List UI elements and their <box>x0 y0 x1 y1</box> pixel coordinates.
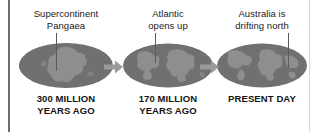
stage-present-day: Australia is drifting north PRESENT DAY <box>214 0 310 132</box>
callout-line: Atlantic <box>120 8 216 20</box>
callout-australia-drifting-north: Australia is drifting north <box>214 8 310 31</box>
caption-line: YEARS AGO <box>14 105 118 117</box>
leader-line-australia <box>288 33 289 68</box>
caption-line: PRESENT DAY <box>214 93 310 105</box>
leader-line-atlantic <box>155 33 156 63</box>
caption-present-day: PRESENT DAY <box>214 93 310 105</box>
right-arrow-icon <box>200 59 220 75</box>
callout-line: Supercontinent <box>14 8 118 20</box>
arrow-stage-1-to-2 <box>104 59 124 75</box>
callout-line: Australia is <box>214 8 310 20</box>
globe-pangaea-graphic <box>18 42 114 89</box>
caption-line: 170 MILLION <box>120 93 216 105</box>
left-margin-rule <box>8 0 10 132</box>
callout-line: drifting north <box>214 20 310 32</box>
caption-170-million-years-ago: 170 MILLION YEARS AGO <box>120 93 216 117</box>
callout-line: opens up <box>120 20 216 32</box>
stage-pangaea: Supercontinent Pangaea 300 MILLION YEARS… <box>14 0 118 132</box>
globe-present-day <box>214 42 310 89</box>
caption-line: 300 MILLION <box>14 93 118 105</box>
callout-line: Pangaea <box>14 20 118 32</box>
globe-pangaea <box>14 42 118 89</box>
right-arrow-icon <box>104 59 124 75</box>
globe-present-day-graphic <box>216 42 308 89</box>
continental-drift-figure: Supercontinent Pangaea 300 MILLION YEARS… <box>0 0 318 132</box>
caption-line: YEARS AGO <box>120 105 216 117</box>
arrow-stage-2-to-3 <box>200 59 220 75</box>
callout-supercontinent-pangaea: Supercontinent Pangaea <box>14 8 118 31</box>
callout-atlantic-opens-up: Atlantic opens up <box>120 8 216 31</box>
leader-line-pangaea <box>56 33 57 71</box>
caption-300-million-years-ago: 300 MILLION YEARS AGO <box>14 93 118 117</box>
